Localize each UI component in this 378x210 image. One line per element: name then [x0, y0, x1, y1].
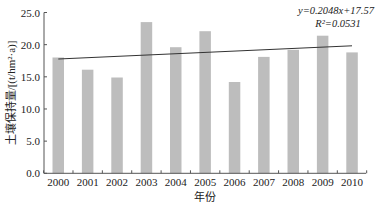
x-tick-label: 2004: [165, 176, 188, 188]
x-tick-label: 2005: [194, 176, 217, 188]
x-tick-label: 2000: [47, 176, 70, 188]
soil-retention-bar-chart: 0.05.010.015.020.025.0 20002001200220032…: [0, 0, 378, 210]
bar-2009: [317, 36, 329, 174]
x-tick-label: 2006: [224, 176, 247, 188]
bar-2007: [258, 57, 270, 173]
bar-2008: [288, 50, 300, 174]
x-tick-label: 2009: [312, 176, 335, 188]
bar-2003: [141, 22, 153, 173]
y-tick-label: 20.0: [21, 39, 41, 51]
x-tick-label: 2008: [282, 176, 305, 188]
bar-2002: [111, 78, 123, 174]
x-tick-label: 2003: [135, 176, 158, 188]
y-axis-ticks: 0.05.010.015.020.025.0: [21, 7, 47, 180]
bar-2001: [82, 70, 94, 174]
y-tick-label: 0.0: [26, 167, 40, 179]
r-squared-value: R²=0.0531: [314, 18, 361, 29]
x-tick-label: 2007: [253, 176, 276, 188]
x-tick-label: 2001: [77, 176, 99, 188]
bar-2004: [170, 47, 182, 173]
bar-2010: [346, 52, 358, 173]
x-tick-label: 2010: [341, 176, 364, 188]
bar-2000: [53, 58, 65, 174]
y-tick-label: 10.0: [21, 103, 41, 115]
y-tick-label: 5.0: [26, 135, 40, 147]
y-axis-title: 土壤保持量/[(t/hm²·a)]: [4, 41, 18, 146]
chart-canvas: 0.05.010.015.020.025.0 20002001200220032…: [0, 0, 378, 210]
bar-2006: [229, 82, 241, 173]
y-tick-label: 25.0: [21, 7, 41, 19]
regression-equation: y=0.2048x+17.57: [297, 5, 375, 16]
x-tick-label: 2002: [106, 176, 128, 188]
bar-series: [53, 22, 358, 173]
y-tick-label: 15.0: [21, 71, 41, 83]
x-axis-title: 年份: [194, 190, 216, 203]
